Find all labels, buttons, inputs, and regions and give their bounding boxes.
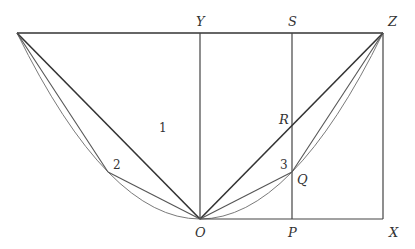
region-1-label: 1 bbox=[159, 121, 167, 135]
region-2-label: 2 bbox=[113, 158, 121, 172]
label-Q: Q bbox=[297, 172, 308, 187]
chord-Q-Z bbox=[292, 33, 383, 172]
label-O: O bbox=[195, 225, 206, 240]
label-Z: Z bbox=[387, 14, 398, 29]
chord-O-Q bbox=[200, 172, 292, 219]
region-3-label: 3 bbox=[280, 158, 288, 172]
chord-A-O bbox=[17, 33, 200, 219]
label-P: P bbox=[287, 225, 297, 240]
parabola-quadrature-diagram: Y S Z R Q O P X 1 2 3 bbox=[0, 0, 415, 249]
chord-A-2 bbox=[17, 33, 108, 172]
label-X: X bbox=[388, 225, 399, 240]
label-S: S bbox=[288, 14, 297, 29]
label-Y: Y bbox=[196, 14, 206, 29]
chord-2-O bbox=[108, 172, 200, 219]
label-R: R bbox=[278, 112, 289, 127]
